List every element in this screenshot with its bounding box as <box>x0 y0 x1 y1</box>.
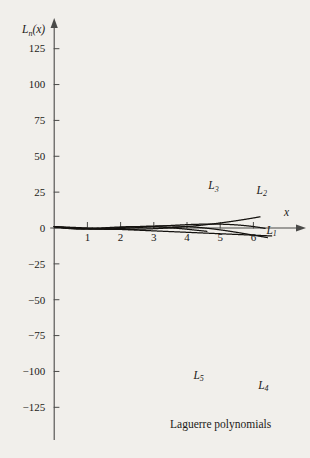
laguerre-polynomials-figure: 125100755025−25−50−75−100−1250 123456 Ln… <box>0 0 310 458</box>
y-tick-label: −125 <box>22 401 45 413</box>
y-tick-label: 100 <box>29 78 46 90</box>
x-axis-title: x <box>283 206 290 218</box>
y-tick-label: 125 <box>29 42 46 54</box>
y-tick-label: −50 <box>28 294 46 306</box>
x-tick-label: 2 <box>118 231 124 243</box>
x-tick-label: 6 <box>251 231 257 243</box>
y-tick-label-zero: 0 <box>40 222 46 234</box>
y-tick-label: 75 <box>34 114 46 126</box>
y-tick-label: −75 <box>28 329 46 341</box>
figure-caption: Laguerre polynomials <box>170 418 272 431</box>
x-tick-label: 1 <box>85 231 91 243</box>
y-tick-label: −25 <box>28 258 46 270</box>
y-tick-label: −100 <box>22 365 45 377</box>
x-tick-label: 3 <box>151 231 157 243</box>
y-tick-label: 50 <box>34 150 46 162</box>
x-tick-label: 5 <box>217 231 223 243</box>
y-tick-label: 25 <box>34 186 46 198</box>
